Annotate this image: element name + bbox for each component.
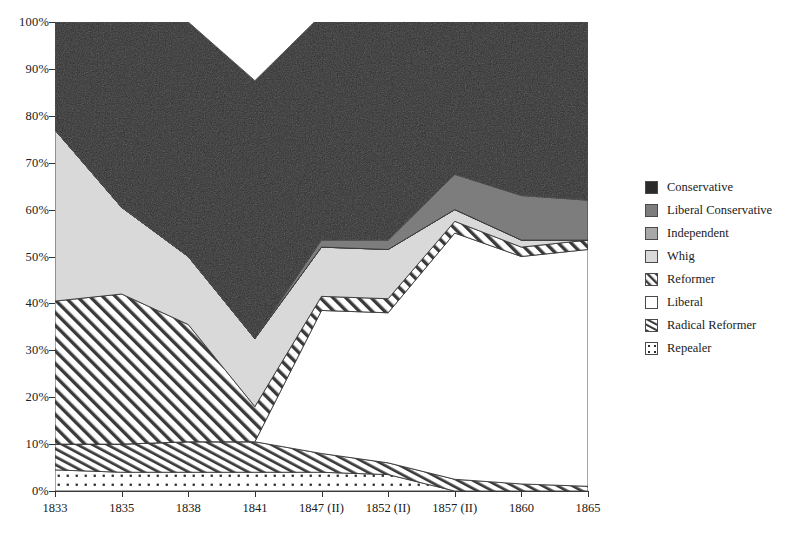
y-tick-label: 60% (25, 202, 49, 217)
x-tick-label: 1835 (109, 501, 134, 516)
legend-swatch-icon (645, 227, 658, 240)
x-tick-label: 1860 (509, 501, 534, 516)
x-tick-mark (55, 491, 56, 497)
legend-label: Liberal (667, 295, 703, 310)
x-tick-mark (521, 491, 522, 497)
x-tick-label: 1833 (43, 501, 68, 516)
x-tick-label: 1838 (176, 501, 201, 516)
legend-item-independent[interactable]: Independent (645, 222, 791, 245)
y-tick-label: 0% (32, 484, 49, 499)
legend-item-repealer[interactable]: Repealer (645, 337, 791, 360)
x-tick-mark (122, 491, 123, 497)
x-tick-mark (188, 491, 189, 497)
stacked-area-plot (55, 22, 588, 491)
y-tick-label: 90% (25, 61, 49, 76)
chart-legend: ConservativeLiberal ConservativeIndepend… (645, 176, 791, 360)
legend-item-whig[interactable]: Whig (645, 245, 791, 268)
y-tick-label: 50% (25, 249, 49, 264)
x-tick-mark (455, 491, 456, 497)
legend-swatch-icon (645, 204, 658, 217)
legend-swatch-icon (645, 296, 658, 309)
legend-swatch-icon (645, 273, 658, 286)
legend-swatch-icon (645, 250, 658, 263)
legend-label: Reformer (667, 272, 715, 287)
area-series-svg (55, 22, 588, 491)
legend-item-reformer[interactable]: Reformer (645, 268, 791, 291)
x-tick-mark (388, 491, 389, 497)
legend-item-radical-reformer[interactable]: Radical Reformer (645, 314, 791, 337)
legend-swatch-icon (645, 181, 658, 194)
legend-label: Conservative (667, 180, 733, 195)
y-tick-label: 80% (25, 108, 49, 123)
legend-label: Whig (667, 249, 695, 264)
x-tick-mark (588, 491, 589, 497)
x-tick-label: 1852 (II) (366, 501, 411, 516)
x-tick-label: 1841 (242, 501, 267, 516)
legend-swatch-icon (645, 319, 658, 332)
y-tick-label: 70% (25, 155, 49, 170)
x-tick-label: 1847 (II) (299, 501, 344, 516)
legend-item-conservative[interactable]: Conservative (645, 176, 791, 199)
y-tick-label: 30% (25, 343, 49, 358)
chart-page: 0%10%20%30%40%50%60%70%80%90%100% (0, 0, 791, 535)
y-tick-label: 10% (25, 437, 49, 452)
x-tick-label: 1865 (576, 501, 601, 516)
legend-label: Liberal Conservative (667, 203, 772, 218)
y-tick-label: 20% (25, 390, 49, 405)
y-axis-labels: 0%10%20%30%40%50%60%70%80%90%100% (0, 0, 49, 535)
x-tick-label: 1857 (II) (432, 501, 477, 516)
legend-item-liberal-conservative[interactable]: Liberal Conservative (645, 199, 791, 222)
legend-item-liberal[interactable]: Liberal (645, 291, 791, 314)
legend-swatch-icon (645, 342, 658, 355)
x-tick-mark (322, 491, 323, 497)
legend-label: Independent (667, 226, 729, 241)
y-tick-label: 40% (25, 296, 49, 311)
legend-label: Repealer (667, 341, 711, 356)
y-tick-label: 100% (19, 15, 49, 30)
legend-label: Radical Reformer (667, 318, 756, 333)
x-tick-mark (255, 491, 256, 497)
chart-plot-wrapper: 0%10%20%30%40%50%60%70%80%90%100% (0, 0, 640, 535)
